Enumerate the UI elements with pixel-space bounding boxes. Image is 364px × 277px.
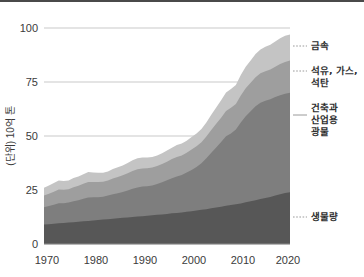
y-tick-label-100: 100: [20, 22, 38, 34]
x-tick-label-1980: 1980: [84, 254, 108, 266]
x-tick-label-2020: 2020: [276, 254, 300, 266]
x-tick-label-2000: 2000: [182, 254, 206, 266]
y-tick-label-0: 0: [32, 238, 38, 250]
y-tick-label-25: 25: [26, 184, 38, 196]
x-tick-label-2010: 2010: [231, 254, 255, 266]
stacked-area-chart: 100 75 50 25 0 1970 1980 1990 2000 2010 …: [0, 2, 364, 277]
legend-label-metals: 금속: [311, 40, 329, 51]
y-tick-label-75: 75: [26, 76, 38, 88]
legend-label-fossil-line1: 석유, 가스,: [311, 65, 358, 76]
legend-label-minerals-line1: 건축과: [311, 102, 338, 113]
legend-label-biomass: 생물량: [311, 211, 338, 222]
legend-label-minerals-line2: 산업용: [311, 114, 338, 125]
chart-figure: 100 75 50 25 0 1970 1980 1990 2000 2010 …: [0, 0, 364, 277]
x-tick-label-1970: 1970: [35, 254, 59, 266]
legend-label-fossil-line2: 석탄: [311, 77, 329, 88]
y-tick-label-50: 50: [26, 130, 38, 142]
x-tick-label-1990: 1990: [133, 254, 157, 266]
legend-label-minerals-line3: 광물: [311, 126, 329, 137]
y-axis-title: (단위) 10억 톤: [4, 106, 16, 165]
